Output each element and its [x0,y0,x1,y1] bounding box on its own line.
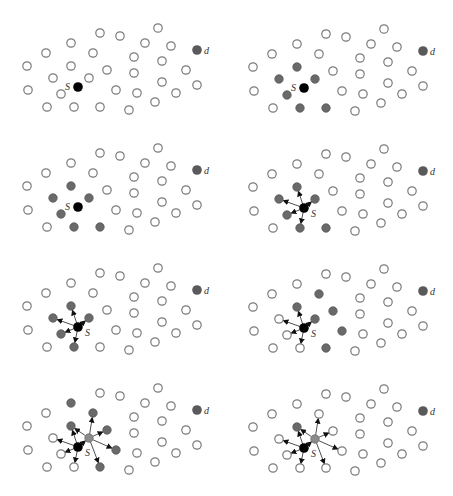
node-informed [293,63,301,71]
node-uninformed [158,297,166,305]
panel-step-1: Sd [23,24,210,114]
node-uninformed [380,265,388,273]
node-uninformed [116,392,124,400]
node-uninformed [172,89,180,97]
node-informed [49,194,57,202]
node-uninformed [322,390,330,398]
node-uninformed [193,321,201,329]
node-uninformed [24,446,32,454]
node-uninformed [167,162,175,170]
source-node [73,202,83,212]
node-uninformed [377,459,385,467]
node-uninformed [103,306,111,314]
node-uninformed [193,441,201,449]
node-uninformed [356,70,364,78]
node-uninformed [89,49,97,57]
node-uninformed [398,330,406,338]
node-informed [103,426,111,434]
node-uninformed [419,82,427,90]
node-uninformed [356,294,364,302]
panels-container: SdSdSdSdSdSdSdSd [23,24,436,475]
node-uninformed [167,42,175,50]
broadcast-arrow [316,443,324,464]
node-uninformed [133,209,141,217]
node-uninformed [130,189,138,197]
source-label: S [311,448,316,459]
node-uninformed [351,467,359,475]
node-uninformed [419,202,427,210]
node-uninformed [167,402,175,410]
node-uninformed [112,206,120,214]
node-informed [96,463,104,471]
node-informed [283,211,291,219]
node-uninformed [329,67,337,75]
broadcast-arrow [81,441,85,444]
node-uninformed [24,206,32,214]
node-uninformed [158,57,166,65]
source-node [299,83,309,93]
destination-node [418,286,428,296]
node-uninformed [393,43,401,51]
node-uninformed [293,400,301,408]
node-informed [296,224,304,232]
node-uninformed [356,54,364,62]
destination-node [192,165,202,175]
broadcast-arrow [81,321,85,324]
source-label: S [65,81,70,92]
broadcast-arrow [291,330,300,334]
relay-node [85,434,93,442]
node-uninformed [356,174,364,182]
node-uninformed [57,450,65,458]
node-uninformed [342,33,350,41]
broadcast-arrow [307,202,311,205]
node-uninformed [293,160,301,168]
node-uninformed [43,223,51,231]
node-uninformed [408,187,416,195]
node-uninformed [268,410,276,418]
node-uninformed [322,270,330,278]
broadcast-arrow [283,441,300,447]
broadcast-arrow [301,332,303,343]
node-uninformed [112,86,120,94]
node-uninformed [116,272,124,280]
node-uninformed [24,86,32,94]
node-informed [338,327,346,335]
node-uninformed [315,410,323,418]
node-uninformed [141,279,149,287]
node-uninformed [125,106,133,114]
node-uninformed [419,442,427,450]
node-uninformed [359,90,367,98]
node-uninformed [43,343,51,351]
node-uninformed [384,58,392,66]
node-uninformed [154,24,162,32]
node-informed [67,422,75,430]
broadcast-arrow [75,331,77,342]
destination-label: d [430,46,436,57]
broadcast-arrow [307,442,311,445]
node-uninformed [154,264,162,272]
node-uninformed [367,160,375,168]
destination-label: d [204,165,210,176]
broadcast-arrow [319,441,338,449]
node-uninformed [130,53,138,61]
source-label: S [291,82,296,93]
broadcast-arrow [316,419,319,435]
node-uninformed [85,74,93,82]
node-uninformed [23,182,31,190]
broadcast-arrow [301,452,303,463]
broadcast-arrow [283,201,300,207]
node-uninformed [70,463,78,471]
node-uninformed [67,39,75,47]
node-uninformed [67,159,75,167]
node-uninformed [130,309,138,317]
node-uninformed [172,449,180,457]
node-informed [49,314,57,322]
node-informed [315,290,323,298]
broadcast-arrow [90,442,98,463]
node-uninformed [130,69,138,77]
node-uninformed [42,409,50,417]
node-uninformed [398,450,406,458]
node-uninformed [269,224,277,232]
broadcast-arrow [283,321,300,327]
node-uninformed [158,318,166,326]
